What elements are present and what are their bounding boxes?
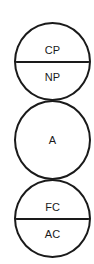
node-label-top: CP (16, 44, 89, 56)
node-label-top: FC (16, 201, 89, 213)
node-label-bottom: AC (16, 228, 89, 240)
node-divider (16, 218, 89, 220)
node-label-bottom: NP (16, 71, 89, 83)
node-label: A (16, 134, 89, 146)
node-a: A (14, 100, 91, 180)
node-fc-ac: FC AC (14, 179, 91, 258)
node-cp-np: CP NP (14, 22, 91, 101)
node-divider (16, 61, 89, 63)
